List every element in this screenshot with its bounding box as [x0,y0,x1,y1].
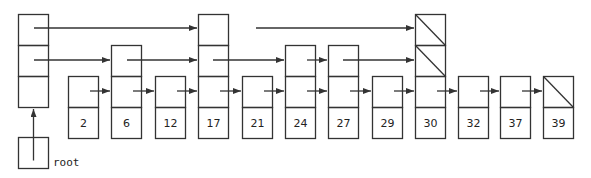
pointer-cell [459,77,489,108]
pointer-cell [112,77,142,108]
pointer-cell [373,77,403,108]
skip-list-node: 30 [416,15,446,139]
pointer-cell [329,77,359,108]
node-key: 32 [467,117,481,130]
node-key: 17 [207,117,221,130]
pointer-cell [329,46,359,77]
pointer-cell [286,77,316,108]
skip-list-node: 29 [373,77,403,139]
root-label: root [53,156,80,169]
header-cell [19,15,49,46]
pointer-cell [199,15,229,46]
skip-list-diagram: 2612172124272930323739 root [0,0,591,178]
skip-list-node: 21 [243,77,273,139]
node-key: 2 [80,117,87,130]
pointer-cell [199,77,229,108]
node-key: 27 [337,117,351,130]
skip-list-links [34,28,542,91]
header-cell [19,77,49,108]
pointer-cell [243,77,273,108]
skip-list-node: 12 [156,77,186,139]
node-key: 12 [164,117,178,130]
node-key: 21 [251,117,265,130]
skip-list-nodes: 2612172124272930323739 [69,15,574,139]
null-pointer-slash [544,77,574,108]
node-key: 37 [509,117,523,130]
skip-list-node: 32 [459,77,489,139]
skip-list-node: 37 [501,77,531,139]
pointer-cell [156,77,186,108]
null-pointer-slash [416,46,446,77]
node-key: 39 [552,117,566,130]
pointer-cell [199,46,229,77]
node-key: 24 [294,117,308,130]
null-pointer-slash [416,15,446,46]
pointer-cell [501,77,531,108]
pointer-cell [416,77,446,108]
node-key: 29 [381,117,395,130]
skip-list-node: 39 [544,77,574,139]
header-cell [19,46,49,77]
node-key: 30 [424,117,438,130]
skip-list-node: 2 [69,77,99,139]
node-key: 6 [123,117,130,130]
pointer-cell [69,77,99,108]
pointer-cell [112,46,142,77]
pointer-cell [286,46,316,77]
skip-list-node: 17 [199,15,229,139]
